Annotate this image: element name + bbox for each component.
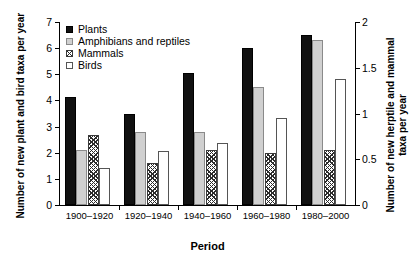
legend-item: Birds [66, 60, 190, 71]
bar-plants [242, 48, 253, 205]
right-tick-mark [356, 159, 360, 160]
bar-mammals [88, 135, 99, 205]
legend-label: Birds [78, 60, 102, 71]
legend-swatch-square-filled-black [66, 26, 73, 33]
x-axis-title: Period [60, 240, 355, 252]
right-tick-mark [356, 22, 360, 23]
left-tick-mark [55, 179, 59, 180]
legend-label: Plants [78, 24, 107, 35]
right-tick-label: 0 [362, 199, 368, 211]
bar-group [237, 22, 296, 205]
bar-amphibians-and-reptiles [312, 40, 323, 205]
legend-swatch-square-open [66, 62, 73, 69]
left-tick-label: 7 [46, 16, 52, 28]
bar-mammals [206, 150, 217, 205]
left-tick-mark [55, 48, 59, 49]
left-tick-label: 4 [46, 94, 52, 106]
left-tick-label: 1 [46, 173, 52, 185]
right-tick-mark [356, 205, 360, 206]
x-tick-label: 1900–1920 [60, 210, 119, 221]
bar-amphibians-and-reptiles [253, 87, 264, 205]
legend-swatch-square-filled-grey [66, 38, 73, 45]
left-tick-label: 5 [46, 68, 52, 80]
left-tick-mark [55, 74, 59, 75]
legend-item: Mammals [66, 48, 190, 59]
bar-birds [99, 168, 110, 205]
bar-birds [276, 118, 287, 205]
right-tick-label: 0.5 [362, 153, 377, 165]
legend-label: Amphibians and reptiles [78, 36, 190, 47]
bar-birds [217, 143, 228, 205]
bar-amphibians-and-reptiles [135, 132, 146, 205]
bar-plants [301, 35, 312, 205]
figure-bar-chart: 01234567 00.511.52 Number of new plant a… [0, 0, 416, 261]
bar-plants [65, 97, 76, 205]
bar-amphibians-and-reptiles [194, 132, 205, 205]
bar-birds [158, 151, 169, 205]
left-tick-mark [55, 100, 59, 101]
bar-plants [183, 73, 194, 205]
right-axis-title-line2: taxa per year [397, 94, 408, 156]
right-tick-mark [356, 68, 360, 69]
right-tick-label: 1.5 [362, 62, 377, 74]
x-tick-label: 1940–1960 [178, 210, 237, 221]
bar-mammals [265, 153, 276, 205]
right-tick-label: 2 [362, 16, 368, 28]
x-tick-label: 1960–1980 [237, 210, 296, 221]
legend-label: Mammals [78, 48, 124, 59]
left-tick-mark [55, 153, 59, 154]
right-tick-mark [356, 114, 360, 115]
legend-item: Plants [66, 24, 190, 35]
left-tick-mark [55, 22, 59, 23]
bar-amphibians-and-reptiles [76, 150, 87, 205]
left-tick-label: 6 [46, 42, 52, 54]
legend-swatch-square-hatched [66, 50, 73, 57]
x-tick-label: 1920–1940 [119, 210, 178, 221]
legend-item: Amphibians and reptiles [66, 36, 190, 47]
x-tick-label: 1980–2000 [296, 210, 355, 221]
right-tick-label: 1 [362, 108, 368, 120]
bar-plants [124, 114, 135, 206]
left-tick-label: 2 [46, 147, 52, 159]
x-axis-line [59, 205, 356, 206]
left-tick-mark [55, 205, 59, 206]
legend: PlantsAmphibians and reptilesMammalsBird… [66, 24, 190, 72]
bar-mammals [324, 150, 335, 205]
left-tick-label: 3 [46, 121, 52, 133]
bar-group [296, 22, 355, 205]
left-tick-label: 0 [46, 199, 52, 211]
right-axis-title-line1: Number of new herptile and mammal [385, 37, 396, 212]
left-tick-mark [55, 127, 59, 128]
left-axis-title: Number of new plant and bird taxa per ye… [15, 19, 26, 219]
bar-mammals [147, 163, 158, 205]
right-axis-title: Number of new herptile and mammal taxa p… [385, 25, 409, 225]
bar-birds [335, 79, 346, 205]
